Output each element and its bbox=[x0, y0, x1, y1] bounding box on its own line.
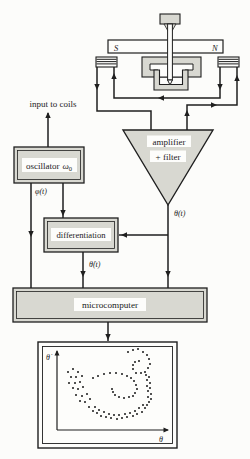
scatter-point bbox=[149, 387, 151, 389]
arrow-up-icon bbox=[45, 112, 50, 118]
scatter-point bbox=[84, 401, 86, 403]
scatter-point bbox=[134, 410, 136, 412]
arrow-up-icon bbox=[111, 73, 116, 79]
scatter-point bbox=[103, 411, 105, 413]
scatter-point bbox=[113, 414, 115, 416]
microcomputer-box: microcomputer bbox=[13, 288, 207, 322]
arrow-down-icon bbox=[80, 271, 85, 277]
scatter-point bbox=[150, 398, 152, 400]
differentiation-label: differentiation bbox=[57, 230, 107, 240]
amplifier-label-line2: + filter bbox=[156, 152, 181, 162]
scatter-point bbox=[147, 396, 149, 398]
arrow-up-icon bbox=[234, 75, 239, 81]
scatter-point bbox=[138, 407, 140, 409]
pendulum-rod bbox=[168, 24, 173, 80]
scatter-point bbox=[134, 361, 136, 363]
scatter-point bbox=[132, 349, 134, 351]
arrow-right-icon bbox=[211, 102, 217, 107]
scatter-point bbox=[121, 417, 123, 419]
scatter-point bbox=[138, 360, 140, 362]
scatter-point bbox=[115, 372, 117, 374]
arrow-down-icon bbox=[94, 84, 99, 90]
scatter-point bbox=[141, 411, 143, 413]
scatter-point bbox=[68, 382, 70, 384]
scatter-point bbox=[148, 358, 150, 360]
scatter-point bbox=[103, 373, 105, 375]
scatter-point bbox=[144, 371, 146, 373]
scatter-point bbox=[81, 375, 83, 377]
scatter-point bbox=[75, 376, 77, 378]
theta-dot-signal-label: θ̇(t) bbox=[89, 260, 101, 269]
amplifier-label-line1: amplifier bbox=[153, 137, 186, 147]
scatter-point bbox=[92, 377, 94, 379]
scatter-point bbox=[118, 396, 120, 398]
x-axis-label: θ bbox=[159, 435, 163, 444]
arrow-down-icon bbox=[165, 271, 170, 277]
scatter-point bbox=[110, 417, 112, 419]
scatter-point bbox=[98, 409, 100, 411]
scatter-point bbox=[147, 390, 149, 392]
scatter-point bbox=[75, 394, 77, 396]
scatter-point bbox=[136, 388, 138, 390]
scatter-point bbox=[132, 364, 134, 366]
scatter-point bbox=[79, 400, 81, 402]
scatter-point bbox=[149, 382, 151, 384]
differentiation-box: differentiation bbox=[44, 218, 118, 252]
theta-signal-label: θ(t) bbox=[174, 209, 186, 218]
scatter-point bbox=[144, 407, 146, 409]
scatter-point bbox=[108, 413, 110, 415]
arrow-left-icon bbox=[158, 95, 164, 100]
scatter-point bbox=[128, 396, 130, 398]
scatter-point bbox=[146, 404, 148, 406]
chaotic-pendulum-apparatus-figure: S N input to coils oscillatorω0 φ(t) bbox=[0, 0, 250, 459]
scatter-point bbox=[142, 404, 144, 406]
scatter-point bbox=[150, 393, 152, 395]
scatter-point bbox=[134, 392, 136, 394]
scatter-point bbox=[67, 371, 69, 373]
arrow-up-icon bbox=[184, 110, 189, 116]
scatter-point bbox=[124, 413, 126, 415]
arrow-down-icon bbox=[60, 210, 65, 216]
oscillator-word: oscillator bbox=[26, 161, 60, 171]
scatter-point bbox=[89, 398, 91, 400]
scatter-point bbox=[105, 416, 107, 418]
scatter-point bbox=[140, 372, 142, 374]
scatter-point bbox=[86, 393, 88, 395]
scatter-point bbox=[129, 412, 131, 414]
scatter-point bbox=[132, 395, 134, 397]
scatter-point bbox=[132, 415, 134, 417]
scatter-point bbox=[112, 391, 114, 393]
scatter-point bbox=[127, 351, 129, 353]
scatter-point bbox=[132, 368, 134, 370]
scatter-point bbox=[77, 371, 79, 373]
scatter-point bbox=[146, 385, 148, 387]
scatter-point bbox=[148, 401, 150, 403]
scatter-point bbox=[137, 348, 139, 350]
scatter-point bbox=[123, 397, 125, 399]
arrow-down-icon bbox=[217, 84, 222, 90]
scatter-point bbox=[121, 373, 123, 375]
arrow-down-icon bbox=[105, 334, 110, 340]
scatter-point bbox=[111, 388, 113, 390]
scatter-point bbox=[72, 387, 74, 389]
scatter-point bbox=[149, 363, 151, 365]
input-to-coils-label: input to coils bbox=[30, 99, 77, 109]
drive-coil-right bbox=[218, 57, 239, 67]
magnet-bar bbox=[108, 40, 223, 53]
scatter-point bbox=[77, 388, 79, 390]
scatter-point bbox=[96, 412, 98, 414]
scatter-point bbox=[88, 406, 90, 408]
arrow-left-icon bbox=[121, 232, 127, 237]
scatter-point bbox=[94, 406, 96, 408]
scatter-point bbox=[135, 372, 137, 374]
scatter-point bbox=[135, 384, 137, 386]
omega-subscript: 0 bbox=[69, 165, 72, 172]
scatter-point bbox=[109, 372, 111, 374]
scatter-point bbox=[70, 376, 72, 378]
scatter-point bbox=[133, 380, 135, 382]
support-block bbox=[160, 14, 180, 24]
scatter-point bbox=[126, 375, 128, 377]
scatter-point bbox=[145, 374, 147, 376]
pendulum-apparatus: S N bbox=[96, 14, 239, 90]
diagram-canvas: S N input to coils oscillatorω0 φ(t) bbox=[0, 0, 250, 459]
